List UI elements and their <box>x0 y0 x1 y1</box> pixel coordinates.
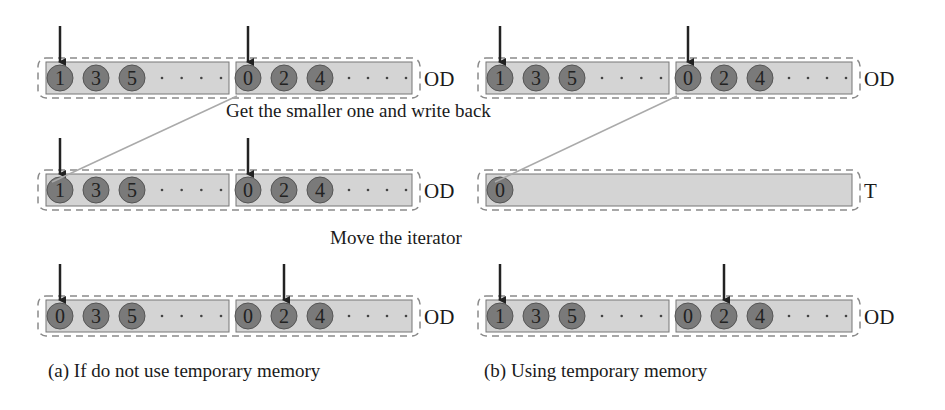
ellipsis-dot <box>161 315 164 318</box>
element-value: 5 <box>127 67 137 89</box>
element-value: 5 <box>127 179 137 201</box>
ellipsis-dot <box>405 77 408 80</box>
element-value: 0 <box>243 179 253 201</box>
ellipsis-dot <box>367 315 370 318</box>
ellipsis-dot <box>220 77 223 80</box>
ellipsis-dot <box>640 315 643 318</box>
element-value: 4 <box>315 305 325 327</box>
element-value: 3 <box>91 305 101 327</box>
element-value: 2 <box>279 67 289 89</box>
merge-diagram: OD135024OD135024OD035024OD135024T0OD1350… <box>0 0 945 410</box>
ellipsis-dot <box>180 189 183 192</box>
element-value: 5 <box>127 305 137 327</box>
region-label: OD <box>864 67 894 91</box>
element-value: 4 <box>315 179 325 201</box>
ellipsis-dot <box>620 77 623 80</box>
ellipsis-dot <box>200 315 203 318</box>
ellipsis-dot <box>220 315 223 318</box>
element-value: 1 <box>55 179 65 201</box>
ellipsis-dot <box>367 189 370 192</box>
region-label: OD <box>864 305 894 329</box>
region-label: T <box>864 179 877 203</box>
ellipsis-dot <box>348 315 351 318</box>
step-label-get-smaller: Get the smaller one and write back <box>226 100 491 122</box>
ellipsis-dot <box>788 77 791 80</box>
element-value: 2 <box>279 179 289 201</box>
element-value: 0 <box>55 305 65 327</box>
step-label-move-iterator: Move the iterator <box>330 227 462 249</box>
caption-b: (b) Using temporary memory <box>484 360 707 382</box>
ellipsis-dot <box>348 77 351 80</box>
ellipsis-dot <box>620 315 623 318</box>
ellipsis-dot <box>161 77 164 80</box>
ellipsis-dot <box>601 77 604 80</box>
element-value: 5 <box>567 67 577 89</box>
element-value: 1 <box>495 305 505 327</box>
element-value: 4 <box>755 67 765 89</box>
ellipsis-dot <box>386 189 389 192</box>
ellipsis-dot <box>807 77 810 80</box>
ellipsis-dot <box>386 315 389 318</box>
ellipsis-dot <box>200 77 203 80</box>
element-value: 1 <box>495 67 505 89</box>
ellipsis-dot <box>807 315 810 318</box>
element-value: 2 <box>719 305 729 327</box>
element-value: 2 <box>279 305 289 327</box>
element-value: 4 <box>315 67 325 89</box>
ellipsis-dot <box>367 77 370 80</box>
ellipsis-dot <box>660 77 663 80</box>
ellipsis-dot <box>660 315 663 318</box>
element-value: 3 <box>91 67 101 89</box>
ellipsis-dot <box>601 315 604 318</box>
region-label: OD <box>424 67 454 91</box>
ellipsis-dot <box>180 315 183 318</box>
ellipsis-dot <box>788 315 791 318</box>
element-value: 0 <box>243 67 253 89</box>
element-value: 0 <box>683 67 693 89</box>
element-value: 2 <box>719 67 729 89</box>
element-value: 4 <box>755 305 765 327</box>
ellipsis-dot <box>386 77 389 80</box>
ellipsis-dot <box>826 77 829 80</box>
region-label: OD <box>424 305 454 329</box>
ellipsis-dot <box>405 189 408 192</box>
ellipsis-dot <box>180 77 183 80</box>
element-value: 0 <box>683 305 693 327</box>
element-value: 0 <box>243 305 253 327</box>
ellipsis-dot <box>845 77 848 80</box>
ellipsis-dot <box>348 189 351 192</box>
element-value: 0 <box>495 179 505 201</box>
write-back-line-a <box>52 96 237 182</box>
ellipsis-dot <box>640 77 643 80</box>
region-label: OD <box>424 179 454 203</box>
ellipsis-dot <box>220 189 223 192</box>
ellipsis-dot <box>200 189 203 192</box>
caption-a: (a) If do not use temporary memory <box>48 360 320 382</box>
element-value: 3 <box>91 179 101 201</box>
element-value: 3 <box>531 305 541 327</box>
element-value: 1 <box>55 67 65 89</box>
ellipsis-dot <box>826 315 829 318</box>
temp-array <box>486 174 852 206</box>
ellipsis-dot <box>845 315 848 318</box>
ellipsis-dot <box>161 189 164 192</box>
write-back-line-b <box>495 96 677 182</box>
ellipsis-dot <box>405 315 408 318</box>
element-value: 5 <box>567 305 577 327</box>
element-value: 3 <box>531 67 541 89</box>
